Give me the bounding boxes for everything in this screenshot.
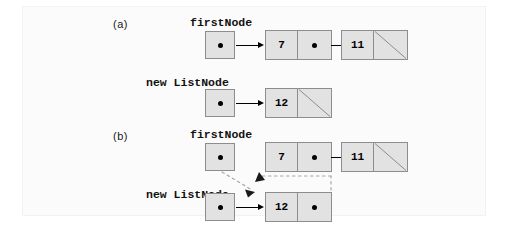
node-link-cell-null <box>298 89 331 117</box>
arrowhead-icon <box>258 100 264 106</box>
pointer-dot-icon <box>312 155 317 160</box>
node-link-cell <box>298 143 331 171</box>
pointer-label-newlistnode-a: new ListNode <box>146 76 229 89</box>
null-slash-icon <box>374 31 407 59</box>
null-slash-icon <box>298 89 331 117</box>
node-link-cell-null <box>374 31 407 59</box>
node-data-cell: 7 <box>266 31 298 59</box>
list-node-12-b[interactable]: 12 <box>265 192 332 222</box>
node-link-cell-null <box>374 143 407 171</box>
list-node-11-b[interactable]: 11 <box>341 142 408 172</box>
node-link-cell <box>298 193 331 221</box>
pointer-box-firstnode-b[interactable] <box>205 143 235 171</box>
arrow-firstnode-to-node7-a <box>236 45 260 46</box>
part-label-a: (a) <box>113 18 128 30</box>
pointer-box-firstnode-a[interactable] <box>205 31 235 59</box>
arrowhead-icon <box>258 42 264 48</box>
pointer-box-newlistnode-b[interactable] <box>205 193 235 221</box>
node-data-cell: 12 <box>266 89 298 117</box>
arrowhead-icon <box>258 204 264 210</box>
list-node-7-a[interactable]: 7 <box>265 30 332 60</box>
figure-canvas: (a) firstNode 7 11 new ListNode 12 <box>0 0 508 240</box>
pointer-dot-icon <box>218 205 223 210</box>
node-data-cell: 7 <box>266 143 298 171</box>
pointer-box-newlistnode-a[interactable] <box>205 89 235 117</box>
list-node-7-b[interactable]: 7 <box>265 142 332 172</box>
list-node-11-a[interactable]: 11 <box>341 30 408 60</box>
arrow-newlistnode-to-node12-b <box>236 207 260 208</box>
pointer-dot-icon <box>312 205 317 210</box>
list-node-12-a[interactable]: 12 <box>265 88 332 118</box>
pointer-dot-icon <box>218 155 223 160</box>
pointer-dot-icon <box>312 43 317 48</box>
figure-panel <box>22 6 486 216</box>
pointer-dot-icon <box>218 43 223 48</box>
node-data-cell: 11 <box>342 143 374 171</box>
pointer-label-firstnode-a: firstNode <box>190 16 252 29</box>
node-link-cell <box>298 31 331 59</box>
pointer-dot-icon <box>218 101 223 106</box>
arrow-newlistnode-to-node12-a <box>236 103 260 104</box>
node-data-cell: 11 <box>342 31 374 59</box>
part-label-b: (b) <box>113 130 128 142</box>
null-slash-icon <box>374 143 407 171</box>
node-data-cell: 12 <box>266 193 298 221</box>
pointer-label-firstnode-b: firstNode <box>190 128 252 141</box>
